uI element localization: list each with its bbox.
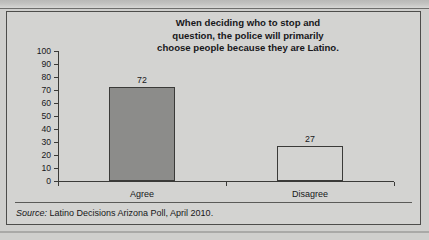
y-axis-tick-mark (54, 116, 58, 117)
y-axis-tick-label: 90 (25, 60, 51, 69)
y-axis-tick-mark (54, 155, 58, 156)
plot-area: 010203040506070809010072Agree27Disagree (7, 12, 422, 226)
y-axis-tick-label: 10 (25, 164, 51, 173)
source-note: Source: Latino Decisions Arizona Poll, A… (16, 208, 213, 218)
x-axis-tick-mark (394, 182, 395, 186)
y-axis-tick-label: 100 (25, 47, 51, 56)
source-divider (15, 202, 412, 203)
bar-agree (109, 87, 175, 181)
y-axis-tick-mark (54, 168, 58, 169)
source-label: Source: (16, 208, 47, 218)
x-axis-category-label: Agree (87, 189, 197, 199)
bar-disagree (277, 146, 343, 181)
source-citation: Latino Decisions Arizona Poll, April 201… (47, 208, 213, 218)
x-axis-category-label: Disagree (255, 189, 365, 199)
y-axis-tick-mark (54, 90, 58, 91)
x-axis-tick-mark (226, 182, 227, 186)
y-axis-tick-label: 0 (25, 177, 51, 186)
y-axis-tick-mark (54, 142, 58, 143)
bar-value-label: 72 (112, 75, 172, 85)
y-axis-tick-label: 50 (25, 112, 51, 121)
y-axis-tick-mark (54, 103, 58, 104)
y-axis-tick-label: 80 (25, 73, 51, 82)
y-axis-tick-mark (54, 51, 58, 52)
y-axis-tick-mark (54, 77, 58, 78)
y-axis-line (58, 51, 59, 182)
y-axis-tick-label: 70 (25, 86, 51, 95)
y-axis-tick-label: 40 (25, 125, 51, 134)
y-axis-tick-mark (54, 64, 58, 65)
cropped-caption-strip (0, 0, 429, 9)
y-axis-tick-label: 30 (25, 138, 51, 147)
y-axis-tick-label: 20 (25, 151, 51, 160)
y-axis-tick-mark (54, 129, 58, 130)
x-axis-tick-mark (58, 182, 59, 186)
page-bottom-edge (0, 231, 429, 233)
caption-strip-rule (0, 8, 429, 9)
figure-panel: When deciding who to stop andquestion, t… (6, 11, 421, 225)
bar-value-label: 27 (280, 134, 340, 144)
y-axis-tick-label: 60 (25, 99, 51, 108)
